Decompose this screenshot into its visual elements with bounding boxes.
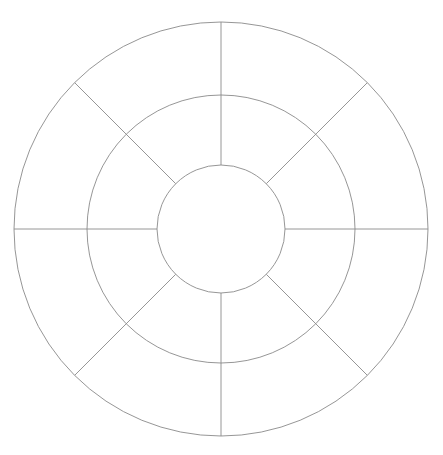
spokes-group xyxy=(14,22,428,436)
spoke-315deg xyxy=(266,274,367,375)
spoke-225deg xyxy=(75,274,176,375)
ring-wheel-diagram xyxy=(0,0,443,455)
spoke-45deg xyxy=(266,83,367,184)
spoke-135deg xyxy=(75,83,176,184)
ring-inner xyxy=(157,165,285,293)
